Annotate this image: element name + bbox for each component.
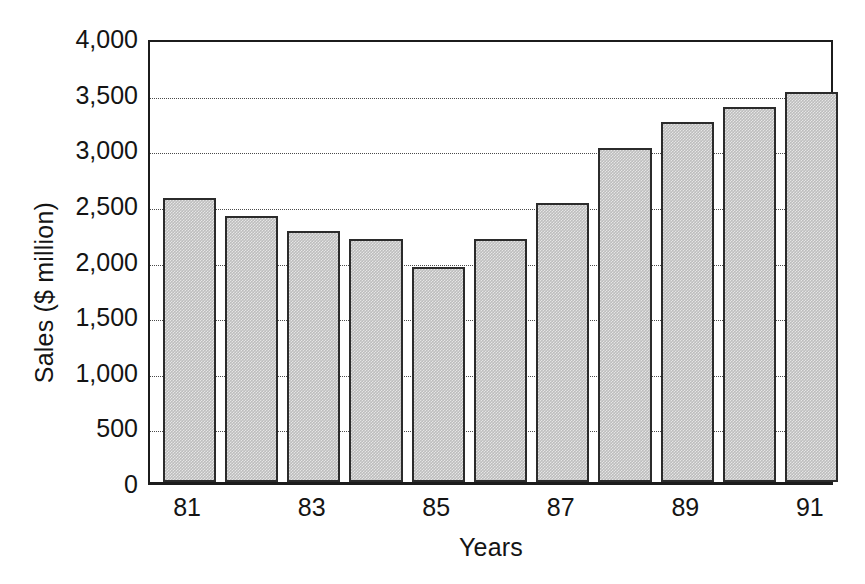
bar [723, 107, 776, 482]
x-tick-label: 91 [783, 492, 836, 522]
x-tick-label: 89 [659, 492, 712, 522]
y-tick-label: 1,000 [8, 361, 138, 386]
bar-chart-figure: Sales ($ million) 05001,0001,5002,0002,5… [0, 0, 865, 584]
bar [598, 148, 651, 482]
plot-area [148, 40, 833, 485]
y-tick-label: 3,500 [8, 83, 138, 108]
x-axis-tick-labels: 818385878991 [148, 492, 833, 526]
bar [536, 203, 589, 482]
y-axis-tick-labels: 05001,0001,5002,0002,5003,0003,5004,000 [0, 40, 138, 485]
bar [225, 216, 278, 482]
bar [661, 122, 714, 482]
y-tick-label: 1,500 [8, 305, 138, 330]
y-tick-label: 2,000 [8, 250, 138, 275]
x-tick-label: 83 [285, 492, 338, 522]
x-tick-label: 81 [161, 492, 214, 522]
x-tick-label: 85 [410, 492, 463, 522]
bar [474, 239, 527, 482]
bar [163, 198, 216, 482]
x-axis-title: Years [148, 533, 834, 562]
x-tick-label: 87 [534, 492, 587, 522]
bar [412, 267, 465, 482]
bar [785, 92, 838, 482]
y-tick-label: 500 [8, 416, 138, 441]
bar [287, 231, 340, 482]
y-tick-label: 4,000 [8, 27, 138, 52]
bar [349, 239, 402, 482]
y-tick-label: 0 [8, 472, 138, 497]
y-tick-label: 3,000 [8, 138, 138, 163]
y-tick-label: 2,500 [8, 194, 138, 219]
bar-series [150, 42, 831, 482]
